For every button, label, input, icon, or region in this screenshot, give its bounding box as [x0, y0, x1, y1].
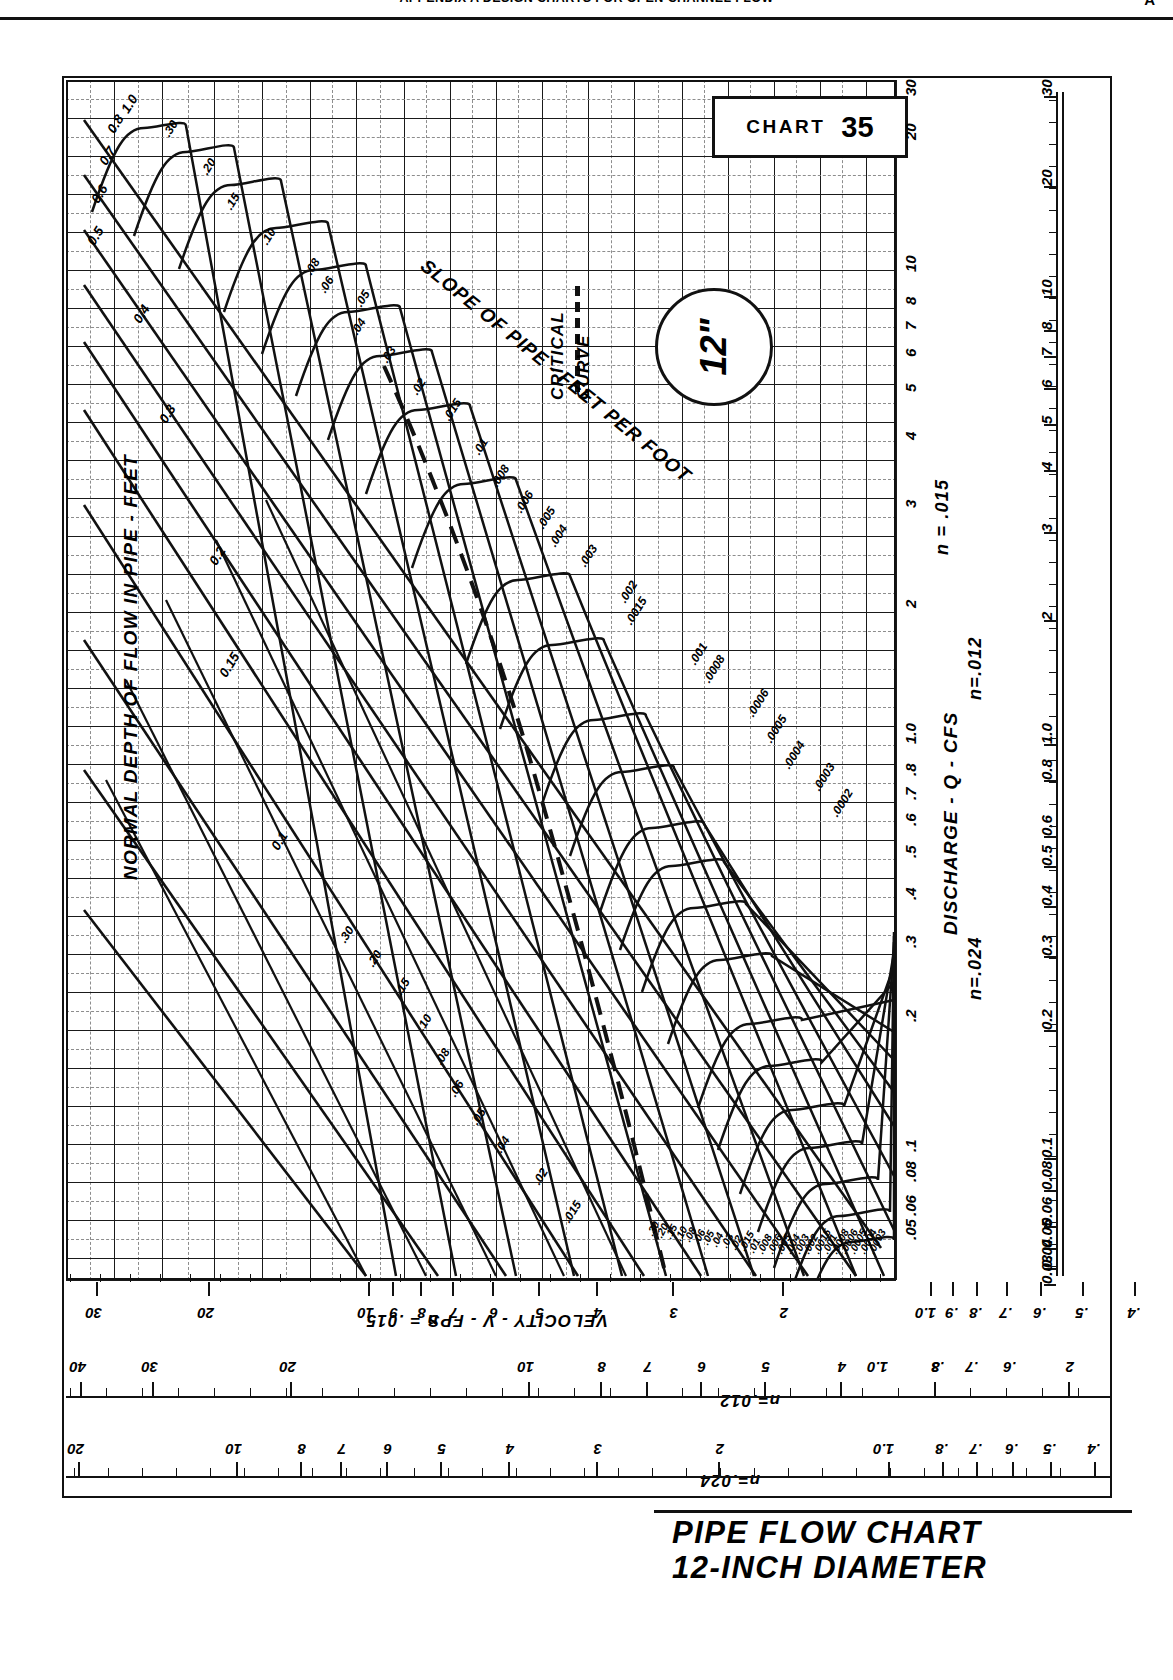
velocity-n015-tick-label: 5 — [536, 1305, 544, 1322]
velocity-n024-minor-tick — [958, 1468, 959, 1477]
velocity-n012-tick — [152, 1382, 154, 1396]
velocity-n015-label: n = .015 — [366, 1310, 438, 1330]
discharge-n012-minor-tick — [1049, 298, 1056, 299]
velocity-n015-minor-tick — [310, 1274, 311, 1282]
discharge-n012-tick — [1044, 330, 1056, 332]
discharge-n012-minor-tick — [1049, 276, 1056, 277]
velocity-n024-minor-tick — [142, 1468, 143, 1477]
velocity-n015-minor-tick — [160, 1274, 161, 1282]
velocity-n012-minor-tick — [142, 1388, 143, 1397]
velocity-n012-tick — [80, 1382, 82, 1396]
velocity-n012-minor-tick — [466, 1388, 467, 1397]
discharge-n012-minor-tick — [1049, 122, 1056, 123]
discharge-n012-tick-label: 20 — [1038, 169, 1055, 186]
discharge-n012-minor-tick — [1049, 914, 1056, 915]
discharge-n015-tick-label: 10 — [902, 255, 919, 272]
discharge-n012-minor-tick — [1049, 606, 1056, 607]
velocity-n012-minor-tick — [178, 1388, 179, 1397]
chart-curve — [216, 540, 564, 1276]
discharge-n012-minor-tick — [1049, 430, 1056, 431]
velocity-n024-minor-tick — [652, 1468, 653, 1477]
discharge-n012-minor-tick — [1049, 1222, 1056, 1223]
depth-axis-title: NORMAL DEPTH OF FLOW IN PIPE - FEET — [120, 454, 142, 880]
discharge-n012-minor-tick — [1049, 1200, 1056, 1201]
velocity-n024-minor-tick — [720, 1468, 721, 1477]
velocity-n024-minor-tick — [1026, 1468, 1027, 1477]
velocity-n015-minor-tick — [220, 1274, 221, 1282]
velocity-n024-minor-tick — [448, 1468, 449, 1477]
velocity-n012-minor-tick — [250, 1388, 251, 1397]
velocity-n015-tick — [452, 1282, 454, 1296]
curve-layer — [66, 80, 896, 1280]
velocity-n015-tick-label: 6 — [490, 1305, 498, 1322]
discharge-n015-tick-label: .8 — [902, 763, 919, 776]
velocity-n015-tick — [208, 1282, 210, 1296]
discharge-n012-tick — [1044, 388, 1056, 390]
discharge-n012-minor-tick — [1049, 1178, 1056, 1179]
velocity-n024-tick-label: .6 — [1005, 1441, 1018, 1458]
velocity-n015-minor-tick — [850, 1274, 851, 1282]
velocity-n024-minor-tick — [1094, 1468, 1095, 1477]
discharge-n015-tick-label: .4 — [902, 887, 919, 900]
velocity-n015-tick-label: 9 — [390, 1305, 398, 1322]
velocity-n015-minor-tick — [790, 1274, 791, 1282]
velocity-n012-tick-label: 30 — [141, 1359, 158, 1376]
velocity-n012-minor-tick — [790, 1388, 791, 1397]
discharge-n012-minor-tick — [1049, 386, 1056, 387]
velocity-n015-minor-tick — [610, 1274, 611, 1282]
chart-curve — [620, 859, 894, 1092]
discharge-n012-ruler — [1056, 92, 1058, 1276]
discharge-n012-tick — [1044, 1158, 1056, 1160]
discharge-n012-tick — [1044, 1190, 1056, 1192]
velocity-n015-minor-tick — [640, 1274, 641, 1282]
chart-bottom-title: PIPE FLOW CHART 12-INCH DIAMETER — [672, 1516, 1142, 1585]
chart-curve — [412, 477, 804, 1276]
velocity-n012-ruler — [66, 1396, 1112, 1398]
velocity-n015-tick — [952, 1282, 954, 1296]
velocity-n024-tick — [508, 1462, 510, 1476]
velocity-n015-minor-tick — [700, 1274, 701, 1282]
velocity-n015-tick-label: 8 — [418, 1305, 426, 1322]
velocity-n012-minor-tick — [646, 1388, 647, 1397]
velocity-n024-label: n=.024 — [699, 1470, 760, 1490]
velocity-n015-minor-tick — [370, 1274, 371, 1282]
velocity-n015-tick — [1134, 1282, 1136, 1296]
velocity-n024-tick — [386, 1462, 388, 1476]
velocity-n012-minor-tick — [214, 1388, 215, 1397]
velocity-n015-tick — [96, 1282, 98, 1296]
discharge-axis-title: DISCHARGE - Q - CFS — [940, 712, 962, 935]
velocity-n012-minor-tick — [682, 1388, 683, 1397]
velocity-n012-minor-tick — [1006, 1388, 1007, 1397]
velocity-n015-minor-tick — [550, 1274, 551, 1282]
velocity-n024-minor-tick — [74, 1468, 75, 1477]
velocity-n024-minor-tick — [788, 1468, 789, 1477]
discharge-n012-tick — [1044, 620, 1056, 622]
velocity-n024-tick-label: 10 — [225, 1441, 242, 1458]
discharge-n012-minor-tick — [1049, 1134, 1056, 1135]
velocity-n024-minor-tick — [822, 1468, 823, 1477]
velocity-n024-tick-label: 3 — [594, 1441, 602, 1458]
discharge-n015-tick-label: .3 — [902, 935, 919, 948]
velocity-n024-tick — [942, 1462, 944, 1476]
discharge-n015-tick-label: 4 — [902, 432, 919, 440]
discharge-n012-tick — [1044, 470, 1056, 472]
discharge-n012-minor-tick — [1049, 474, 1056, 475]
discharge-n012-minor-tick — [1049, 100, 1056, 101]
velocity-n015-tick — [782, 1282, 784, 1296]
velocity-n024-tick — [1050, 1462, 1052, 1476]
velocity-n024-tick-label: .5 — [1043, 1441, 1056, 1458]
gridline-vertical — [896, 80, 897, 1280]
velocity-n015-tick-label: .8 — [969, 1305, 982, 1322]
velocity-n015-tick-label: 1.0 — [915, 1305, 936, 1322]
velocity-n015-tick-label: 7 — [450, 1305, 458, 1322]
velocity-n012-minor-tick — [394, 1388, 395, 1397]
discharge-n012-tick-label: 30 — [1038, 79, 1055, 96]
velocity-n012-tick — [840, 1382, 842, 1396]
velocity-n012-tick-label-tail: .7 — [965, 1359, 978, 1376]
discharge-n012-minor-tick — [1049, 254, 1056, 255]
discharge-n012-minor-tick — [1049, 1112, 1056, 1113]
velocity-n012-minor-tick — [502, 1388, 503, 1397]
velocity-n012-minor-tick — [1042, 1388, 1043, 1397]
velocity-n012-minor-tick — [934, 1388, 935, 1397]
velocity-n012-tick-label: 20 — [279, 1359, 296, 1376]
